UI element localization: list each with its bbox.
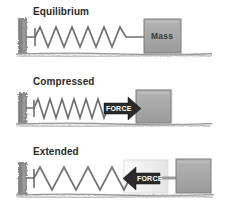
panel-compressed: Compressed <box>0 70 225 140</box>
spring-anchor <box>26 169 34 188</box>
spring-coil-icon <box>35 27 144 47</box>
ground-texture-icon <box>16 194 214 198</box>
mass-block <box>136 90 171 123</box>
spring-anchor <box>26 100 34 117</box>
panel-extended: Extended <box>0 140 225 210</box>
ground-texture-icon <box>16 123 212 127</box>
stage-compressed <box>0 70 225 140</box>
spring-coil-icon <box>34 99 108 118</box>
wall-hatch-icon <box>18 18 27 54</box>
arrow-right-icon <box>104 97 141 120</box>
ground-texture-icon <box>16 53 212 57</box>
wall-hatch-icon <box>18 92 27 124</box>
mass-block <box>176 159 211 193</box>
spring-coil-icon <box>34 167 130 190</box>
spring-mass-figure: Equilibrium <box>0 0 225 212</box>
stage-equilibrium <box>0 0 225 70</box>
wall-hatch-icon <box>18 162 27 195</box>
mass-block <box>144 19 181 53</box>
panel-equilibrium: Equilibrium <box>0 0 225 70</box>
spring-anchor <box>26 28 35 46</box>
stage-extended <box>0 140 225 210</box>
